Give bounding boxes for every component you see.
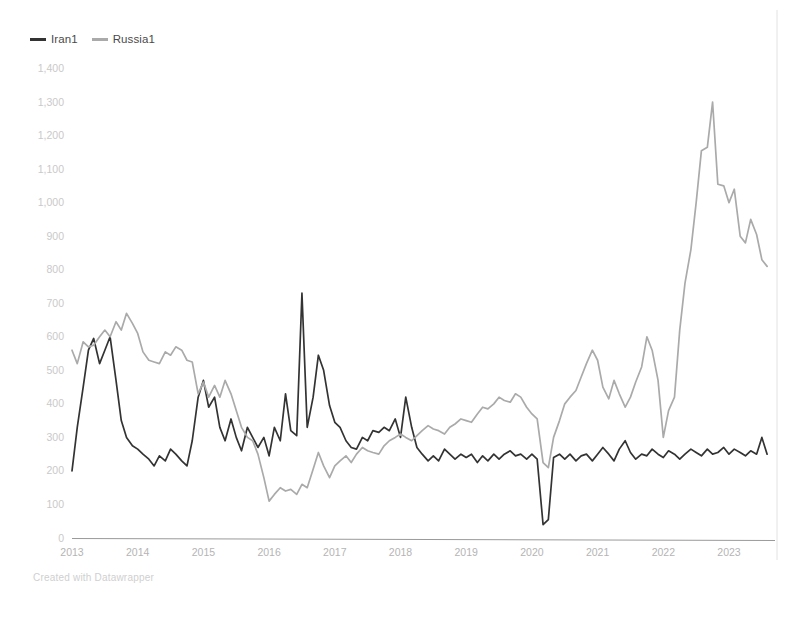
- datawrapper-line-chart: Iran1 Russia1 01002003004005006007008009…: [0, 0, 793, 621]
- y-tick-label: 100: [46, 498, 64, 510]
- line-series-russia1: [72, 102, 767, 501]
- x-tick-label: 2022: [652, 546, 676, 558]
- x-tick-label: 2014: [126, 546, 150, 558]
- y-axis-tick-labels: 01002003004005006007008009001,0001,1001,…: [38, 62, 64, 544]
- plot-area: 01002003004005006007008009001,0001,1001,…: [0, 0, 793, 621]
- y-tick-label: 700: [46, 297, 64, 309]
- x-tick-label: 2013: [60, 546, 84, 558]
- y-tick-label: 400: [46, 397, 64, 409]
- chart-credit: Created with Datawrapper: [33, 572, 154, 583]
- y-tick-label: 300: [46, 431, 64, 443]
- y-tick-label: 900: [46, 230, 64, 242]
- x-tick-label: 2016: [257, 546, 281, 558]
- y-tick-label: 800: [46, 263, 64, 275]
- x-tick-label: 2023: [717, 546, 741, 558]
- x-tick-label: 2017: [323, 546, 347, 558]
- x-tick-label: 2015: [192, 546, 216, 558]
- y-tick-label: 1,400: [38, 62, 64, 74]
- x-axis-baseline: [72, 539, 775, 541]
- y-tick-label: 1,300: [38, 96, 64, 108]
- y-tick-label: 1,200: [38, 129, 64, 141]
- x-tick-label: 2021: [586, 546, 610, 558]
- x-tick-label: 2018: [389, 546, 413, 558]
- y-tick-label: 500: [46, 364, 64, 376]
- line-series-iran1: [72, 293, 767, 524]
- y-tick-label: 0: [58, 532, 64, 544]
- y-tick-label: 1,100: [38, 163, 64, 175]
- y-tick-label: 600: [46, 330, 64, 342]
- y-tick-label: 1,000: [38, 196, 64, 208]
- x-tick-label: 2019: [455, 546, 479, 558]
- x-tick-label: 2020: [520, 546, 544, 558]
- x-axis-tick-labels: 2013201420152016201720182019202020212022…: [60, 546, 741, 558]
- y-tick-label: 200: [46, 464, 64, 476]
